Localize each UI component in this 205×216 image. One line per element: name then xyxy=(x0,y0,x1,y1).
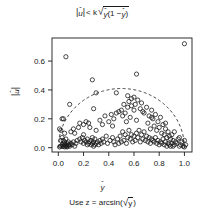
data-point xyxy=(157,125,161,129)
data-point xyxy=(90,78,94,82)
x-axis-tick-label: 0.2 xyxy=(78,159,90,168)
data-point xyxy=(63,131,67,135)
data-point xyxy=(92,107,96,111)
plot-canvas: 0.00.20.40.60.81.00.00.20.40.6 xyxy=(0,0,205,216)
y-axis-tick-label: 0.6 xyxy=(34,57,46,66)
data-point xyxy=(122,102,126,106)
data-point xyxy=(64,55,68,59)
scatter-plot-figure: | ˆ u | < k √ ˆ y (1 − ˆ y xyxy=(0,0,205,216)
data-point xyxy=(139,101,143,105)
data-point xyxy=(98,118,102,122)
data-point xyxy=(110,124,114,128)
data-point xyxy=(88,125,92,129)
data-point xyxy=(109,112,113,116)
data-point xyxy=(123,111,127,115)
data-point xyxy=(114,91,118,95)
x-axis-tick-label: 0.0 xyxy=(53,159,65,168)
data-point xyxy=(182,42,186,46)
data-point xyxy=(134,118,138,122)
data-point xyxy=(107,120,111,124)
data-point xyxy=(172,130,176,134)
x-axis-tick-label: 0.6 xyxy=(128,159,140,168)
data-point xyxy=(129,104,133,108)
data-point xyxy=(127,128,131,132)
y-axis-tick-label: 0.4 xyxy=(34,86,46,95)
data-point xyxy=(146,121,150,125)
data-points-layer xyxy=(57,42,187,149)
data-point xyxy=(158,115,162,119)
data-point xyxy=(76,125,80,129)
data-point xyxy=(110,135,114,139)
data-point xyxy=(100,122,104,126)
data-point xyxy=(68,102,72,106)
data-point xyxy=(126,94,130,98)
data-point xyxy=(118,134,122,138)
data-point xyxy=(166,130,170,134)
data-point xyxy=(112,117,116,121)
data-point xyxy=(128,115,132,119)
data-point xyxy=(73,131,77,135)
data-point xyxy=(136,98,140,102)
data-point xyxy=(137,128,141,132)
data-point xyxy=(104,134,108,138)
data-point xyxy=(150,108,154,112)
data-point xyxy=(132,108,136,112)
data-point xyxy=(124,120,128,124)
data-point xyxy=(148,127,152,131)
y-axis-tick-label: 0.2 xyxy=(34,115,46,124)
data-point xyxy=(156,120,160,124)
data-point xyxy=(144,105,148,109)
data-point xyxy=(142,130,146,134)
data-point xyxy=(71,127,75,131)
data-point xyxy=(152,124,156,128)
data-point xyxy=(153,112,157,116)
data-point xyxy=(136,135,140,139)
data-point xyxy=(134,72,138,76)
x-axis-tick-label: 0.8 xyxy=(154,159,166,168)
data-point xyxy=(103,114,107,118)
data-point xyxy=(124,141,128,145)
x-axis-tick-label: 1.0 xyxy=(179,159,191,168)
y-axis-tick-label: 0.0 xyxy=(34,144,46,153)
data-point xyxy=(94,128,98,132)
x-axis-tick-label: 0.4 xyxy=(103,159,115,168)
